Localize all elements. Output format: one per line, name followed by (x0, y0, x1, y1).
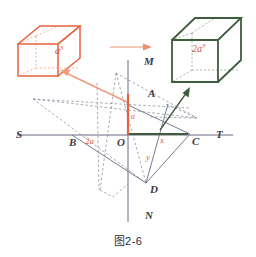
point-B-label: B (69, 137, 76, 148)
point-D-label: D (150, 184, 158, 195)
transform-arrow (110, 44, 152, 51)
unit-cube-hidden-edges (18, 26, 58, 68)
callout-arrow-right-cube (160, 87, 190, 130)
segment-length-y-label: y (146, 153, 150, 162)
unit-cube (18, 26, 80, 76)
point-M-label: M (144, 56, 154, 67)
unit-cube-visible-edges (18, 26, 80, 76)
point-N-label: N (145, 210, 153, 221)
segment-length-2a-label: 2a (85, 137, 94, 146)
point-T-label: T (216, 129, 223, 140)
point-A-label: A (148, 88, 155, 99)
point-C-label: C (192, 136, 199, 147)
point-O-label: O (117, 137, 125, 148)
double-cube-volume-label: 2a3 (192, 44, 205, 54)
double-cube-visible-edges (172, 18, 241, 82)
figure-2-6: a3 2a3 S T M N A B C D O a 2a x y 图2-6 (0, 0, 256, 257)
double-cube (172, 18, 241, 82)
figure-caption: 图2-6 (0, 232, 256, 248)
callout-arrow-left-cube (60, 70, 127, 103)
unit-cube-volume-label: a3 (55, 46, 63, 56)
segment-length-a-label: a (131, 113, 135, 121)
point-S-label: S (16, 129, 22, 140)
segment-length-x-label: x (160, 136, 164, 145)
